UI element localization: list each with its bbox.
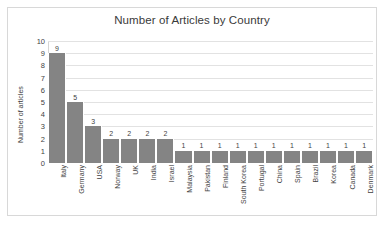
y-tick-label: 8 [15,61,45,70]
x-label-slot: India [138,164,156,220]
x-label-slot: Israel [156,164,174,220]
bar-value-label: 1 [319,141,337,150]
bar-value-label: 9 [48,44,66,53]
bar-slot[interactable]: 1 [337,41,355,163]
x-label-slot: Brazil [301,164,319,220]
x-label-slot: Italy [48,164,66,220]
bar-value-label: 2 [138,129,156,138]
bar-value-label: 1 [174,141,192,150]
bar-value-label: 3 [84,117,102,126]
bar-slot[interactable]: 1 [174,41,192,163]
bar-value-label: 1 [337,141,355,150]
bar-slot[interactable]: 2 [156,41,174,163]
x-label-slot: Portugal [247,164,265,220]
x-label-slot: Canada [337,164,355,220]
bar-value-label: 2 [156,129,174,138]
y-tick-label: 0 [15,159,45,168]
x-tick-label: Denmark [367,165,374,193]
bar-slot[interactable]: 1 [283,41,301,163]
y-tick-label: 5 [15,98,45,107]
bar[interactable] [229,151,247,163]
bar[interactable] [247,151,265,163]
bar-slot[interactable]: 2 [138,41,156,163]
bar-slot[interactable]: 1 [265,41,283,163]
bar[interactable] [355,151,373,163]
x-label-slot: Norway [102,164,120,220]
bar[interactable] [120,139,138,163]
bar[interactable] [48,53,66,163]
bar[interactable] [301,151,319,163]
bar-slot[interactable]: 1 [193,41,211,163]
x-label-slot: Finland [211,164,229,220]
y-tick-label: 3 [15,122,45,131]
x-label-slot: South Korea [229,164,247,220]
x-label-slot: Germany [66,164,84,220]
bar-value-label: 1 [247,141,265,150]
plot-area: 953222211111111111 [48,41,373,163]
x-label-slot: UK [120,164,138,220]
bar-value-label: 1 [193,141,211,150]
bar[interactable] [66,102,84,163]
bar[interactable] [283,151,301,163]
bar-value-label: 1 [211,141,229,150]
y-axis-ticks: 109876543210 [8,41,45,163]
bar-slot[interactable]: 1 [211,41,229,163]
bar[interactable] [211,151,229,163]
bar-value-label: 1 [265,141,283,150]
x-label-slot: Malaysia [174,164,192,220]
bar-slot[interactable]: 1 [355,41,373,163]
x-label-slot: Denmark [355,164,373,220]
bar-series: 953222211111111111 [48,41,373,163]
bar-slot[interactable]: 2 [102,41,120,163]
y-tick-label: 9 [15,49,45,58]
bar-value-label: 1 [283,141,301,150]
bar-value-label: 2 [120,129,138,138]
bar-value-label: 5 [66,93,84,102]
bar-slot[interactable]: 5 [66,41,84,163]
x-label-slot: Korea [319,164,337,220]
bar[interactable] [193,151,211,163]
bar[interactable] [102,139,120,163]
bar-slot[interactable]: 1 [319,41,337,163]
bar[interactable] [84,126,102,163]
bar-slot[interactable]: 3 [84,41,102,163]
bar[interactable] [174,151,192,163]
y-tick-label: 1 [15,146,45,155]
y-tick-label: 10 [15,37,45,46]
x-axis-labels: ItalyGermanyUSANorwayUKIndiaIsraelMalays… [48,164,373,220]
bar-slot[interactable]: 1 [301,41,319,163]
bar-value-label: 1 [301,141,319,150]
bar[interactable] [337,151,355,163]
x-label-slot: Spain [283,164,301,220]
bar-slot[interactable]: 2 [120,41,138,163]
bar-value-label: 2 [102,129,120,138]
bar[interactable] [265,151,283,163]
y-tick-label: 6 [15,85,45,94]
chart-title: Number of Articles by Country [8,14,376,26]
bar-slot[interactable]: 1 [229,41,247,163]
bar-slot[interactable]: 1 [247,41,265,163]
chart-container: Number of Articles by Country Number of … [7,7,377,216]
x-label-slot: China [265,164,283,220]
y-tick-label: 7 [15,73,45,82]
bar-value-label: 1 [229,141,247,150]
bar-slot[interactable]: 9 [48,41,66,163]
bar-value-label: 1 [355,141,373,150]
y-tick-label: 2 [15,134,45,143]
y-tick-label: 4 [15,110,45,119]
bar[interactable] [138,139,156,163]
x-label-slot: USA [84,164,102,220]
x-label-slot: Pakistan [193,164,211,220]
bar[interactable] [319,151,337,163]
bar[interactable] [156,139,174,163]
